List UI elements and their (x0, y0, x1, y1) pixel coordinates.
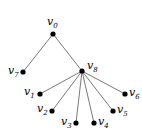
node-label-v1: v1 (24, 85, 35, 100)
node-label-v7: v7 (8, 64, 19, 79)
node-v4 (91, 120, 96, 125)
node-label-v0: v0 (47, 15, 58, 30)
node-label-v8: v8 (87, 59, 98, 74)
node-v1 (37, 91, 42, 96)
edge-v8-v3 (76, 71, 82, 123)
edge-v8-v6 (82, 71, 125, 94)
label-group: v0v7v8v1v2v3v4v5v6 (8, 15, 140, 130)
edge-v8-v1 (40, 71, 82, 94)
edge-v8-v2 (52, 71, 82, 111)
node-v2 (49, 108, 54, 113)
node-v8 (79, 68, 84, 73)
node-label-v6: v6 (129, 86, 140, 101)
node-v0 (50, 31, 55, 36)
edge-v0-v7 (23, 34, 53, 72)
node-v5 (110, 108, 115, 113)
node-label-v5: v5 (117, 103, 128, 118)
node-label-v4: v4 (98, 115, 109, 130)
node-label-v2: v2 (37, 102, 48, 117)
node-v6 (122, 91, 127, 96)
tree-diagram-svg: v0v7v8v1v2v3v4v5v6 (0, 0, 142, 135)
node-v7 (20, 69, 25, 74)
tree-diagram: v0v7v8v1v2v3v4v5v6 (0, 0, 142, 135)
edge-v0-v8 (53, 34, 82, 71)
node-v3 (73, 120, 78, 125)
node-label-v3: v3 (61, 115, 72, 130)
